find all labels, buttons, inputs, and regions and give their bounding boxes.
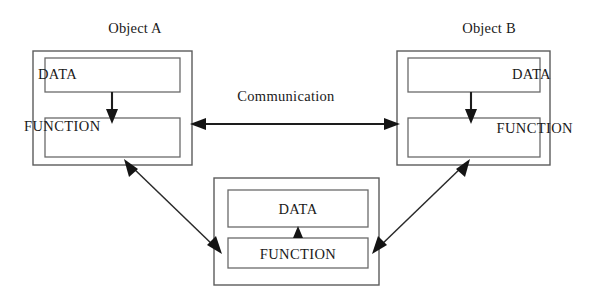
object-c-group[interactable]: DATA FUNCTION (214, 178, 379, 285)
object-a-title: Object A (108, 20, 162, 36)
a-c-arrow-upper (124, 159, 138, 177)
object-a-data-label: DATA (38, 66, 77, 82)
communication-label: Communication (237, 88, 335, 104)
object-communication-diagram: Object A DATA FUNCTION Object B DATA FUN… (0, 0, 596, 302)
diagram-canvas: Object A DATA FUNCTION Object B DATA FUN… (0, 0, 596, 302)
object-b-internal-arrow (465, 92, 477, 124)
object-c-function-label: FUNCTION (260, 246, 337, 262)
object-b-group[interactable]: Object B DATA FUNCTION (397, 20, 573, 165)
object-a-to-object-c-connector[interactable] (124, 159, 222, 254)
object-c-internal-arrow (293, 226, 303, 238)
object-a-group[interactable]: Object A DATA FUNCTION (24, 20, 192, 165)
object-b-data-label: DATA (512, 66, 551, 82)
object-a-function-label: FUNCTION (24, 118, 101, 134)
object-c-data-label: DATA (278, 201, 317, 217)
b-c-arrow-upper (456, 159, 470, 177)
object-a-internal-arrow (106, 92, 118, 124)
object-b-function-label: FUNCTION (496, 120, 573, 136)
object-b-title: Object B (462, 20, 516, 36)
object-b-to-object-c-connector[interactable] (372, 159, 470, 254)
communication-connector[interactable]: Communication (190, 88, 400, 130)
